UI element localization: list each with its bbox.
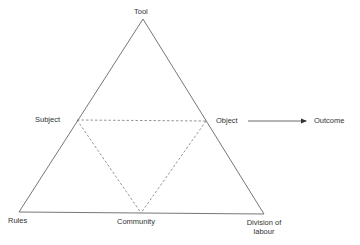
subject-community-dashed-line — [77, 120, 141, 213]
rules-label: Rules — [8, 216, 27, 225]
subject-object-dashed-line — [77, 120, 206, 121]
object-label: Object — [216, 116, 238, 125]
object-community-dashed-line — [141, 121, 206, 213]
outcome-label: Outcome — [314, 116, 344, 125]
tool-label: Tool — [134, 7, 148, 16]
community-label: Community — [117, 217, 155, 226]
division-of-labour-line1: Division of — [240, 218, 288, 227]
division-of-labour-label: Division of labour — [240, 218, 288, 236]
division-of-labour-line2: labour — [240, 227, 288, 236]
subject-label: Subject — [35, 115, 60, 124]
activity-system-diagram: Tool Subject Object Outcome Rules Commun… — [0, 0, 360, 245]
